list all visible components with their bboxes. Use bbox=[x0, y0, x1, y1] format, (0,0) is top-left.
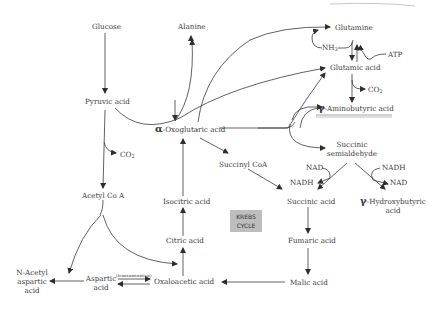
node-succinyl-coa: Succinyl CoA bbox=[219, 160, 267, 169]
node-malic-acid: Malic acid bbox=[290, 278, 328, 287]
node-isocitric-acid: Isocitric acid bbox=[163, 197, 210, 206]
node-glutamine: Glutamine bbox=[335, 23, 373, 32]
krebs-cycle-label: KREBSCYCLE bbox=[230, 210, 262, 232]
node-glutamic-acid: Glutamic acid bbox=[330, 63, 380, 72]
alpha-symbol: α bbox=[155, 123, 163, 134]
gamma-symbol: γ bbox=[360, 195, 367, 206]
node-citric-acid: Citric acid bbox=[166, 236, 204, 245]
cofactor-nad-1: NAD bbox=[306, 163, 323, 172]
node-co2-left: CO2 bbox=[120, 150, 135, 161]
node-co2-right: CO2 bbox=[368, 85, 383, 96]
cofactor-nad-2: NAD bbox=[390, 178, 407, 187]
metabolic-pathway-diagram: Glucose Alanine Pyruvic acid CO2 Acetyl … bbox=[0, 0, 437, 309]
node-nh3: NH3 bbox=[322, 43, 338, 54]
node-fumaric-acid: Fumaric acid bbox=[288, 236, 336, 245]
gamma-symbol: γ bbox=[318, 102, 325, 113]
cofactor-nadh-2: NADH bbox=[382, 163, 406, 172]
node-oxaloacetic-acid: Oxaloacetic acid bbox=[154, 277, 214, 286]
cofactor-nadh-1: NADH bbox=[290, 178, 314, 187]
node-alpha-oxoglutaric-acid: α-Oxoglutaric acid bbox=[155, 124, 225, 134]
node-aspartic-acid: Asparticacid bbox=[84, 274, 118, 292]
node-alanine: Alanine bbox=[178, 22, 206, 31]
node-n-acetyl-aspartic-acid: N-Acetylasparticacid bbox=[14, 268, 50, 295]
node-acetyl-coa: Acetyl Co A bbox=[82, 191, 124, 200]
node-gamma-hydroxybutyric-acid: γ-Hydroxybutyricacid bbox=[358, 196, 428, 215]
node-pyruvic-acid: Pyruvic acid bbox=[85, 97, 130, 106]
node-atp: ATP bbox=[388, 50, 402, 59]
node-succinic-acid: Succinic acid bbox=[287, 197, 335, 206]
node-succinic-semialdehyde: Succinicsemialdehyde bbox=[322, 140, 382, 158]
node-glucose: Glucose bbox=[92, 22, 121, 31]
transamination-label: (transamination) bbox=[116, 271, 152, 280]
node-gamma-aminobutyric-acid: γ-Aminobutyric acid bbox=[318, 103, 394, 113]
